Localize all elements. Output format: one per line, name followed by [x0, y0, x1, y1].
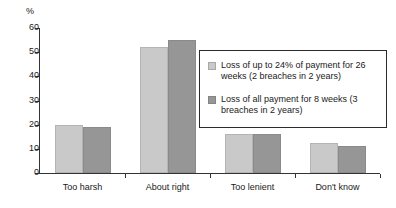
- category-label: Don't know: [295, 182, 380, 193]
- bar: [338, 146, 366, 173]
- y-axis-tick-label: 30: [19, 96, 39, 105]
- x-axis-tick: [210, 174, 211, 178]
- bar-chart: % 0102030405060 Too harshAbout rightToo …: [0, 0, 396, 208]
- y-axis-tick-label: 20: [19, 120, 39, 129]
- bar: [253, 134, 281, 173]
- bar: [140, 47, 168, 173]
- y-axis-tick-label: 50: [19, 47, 39, 56]
- category-label: About right: [125, 182, 210, 193]
- legend-entry-label: Loss of up to 24% of payment for 26 week…: [221, 60, 380, 82]
- bar: [225, 134, 253, 173]
- y-axis-tick-label: 10: [19, 144, 39, 153]
- legend-swatch-icon: [208, 62, 216, 70]
- bar: [55, 125, 83, 173]
- bar: [83, 127, 111, 173]
- legend-entry: Loss of up to 24% of payment for 26 week…: [208, 60, 380, 82]
- bar: [310, 143, 338, 173]
- x-axis-tick: [380, 174, 381, 178]
- y-axis-unit-label: %: [26, 6, 34, 16]
- legend-entry: Loss of all payment for 8 weeks (3 breac…: [208, 94, 380, 116]
- y-axis-tick-label: 40: [19, 71, 39, 80]
- x-axis-tick: [295, 174, 296, 178]
- y-axis-tick-label: 60: [19, 23, 39, 32]
- category-label: Too harsh: [40, 182, 125, 193]
- legend-swatch-icon: [208, 96, 216, 104]
- category-label: Too lenient: [210, 182, 295, 193]
- x-axis-tick: [125, 174, 126, 178]
- bar: [168, 40, 196, 173]
- legend-entry-label: Loss of all payment for 8 weeks (3 breac…: [221, 94, 380, 116]
- legend: Loss of up to 24% of payment for 26 week…: [199, 50, 387, 128]
- y-axis-tick-label: 0: [19, 168, 39, 177]
